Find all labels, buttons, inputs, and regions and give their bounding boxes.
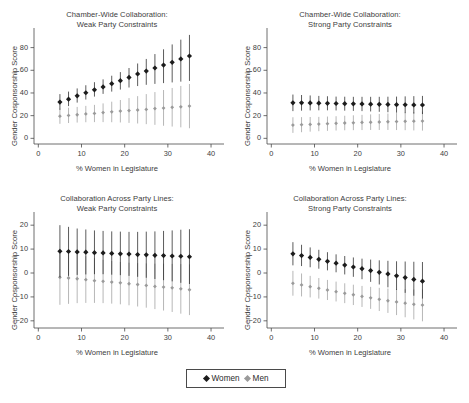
plot-area [0,2,234,188]
plot-area [233,186,467,372]
x-tick-label: 10 [70,149,94,158]
x-tick-label: 30 [156,333,180,342]
x-tick-label: 10 [303,333,327,342]
legend-entry-men: Men [245,374,269,383]
x-tick-label: 0 [259,149,283,158]
y-axis-label: Gender Cosponsorship Score [10,230,19,330]
x-tick-label: 0 [259,333,283,342]
x-axis-label: % Women in Legislature [233,348,467,357]
panel-across-party-weak: Collaboration Across Party Lines: Weak P… [0,186,234,372]
x-tick-label: 0 [26,333,50,342]
x-tick-label: 10 [303,149,327,158]
y-axis-label: Gender Cosponsorship Score [243,46,252,146]
y-axis-label: Gender Cosponsorship Score [10,46,19,146]
series-women [290,95,425,115]
series-men [291,112,424,133]
plot-area [0,186,234,372]
panel-chamber-wide-weak: Chamber-Wide Collaboration: Weak Party C… [0,2,234,188]
legend-label-women: Women [212,374,240,383]
figure-root: Chamber-Wide Collaboration: Weak Party C… [0,0,469,403]
x-tick-label: 20 [113,149,137,158]
series-men [58,84,191,128]
x-tick-label: 30 [389,149,413,158]
x-tick-label: 30 [156,149,180,158]
plot-area [233,2,467,188]
legend-label-men: Men [253,374,269,383]
y-tick-label: 20 [233,220,261,229]
x-tick-label: 0 [26,149,50,158]
x-tick-label: 40 [199,333,223,342]
x-tick-label: 40 [432,149,456,158]
diamond-marker-icon [244,375,251,382]
x-axis-label: % Women in Legislature [0,348,234,357]
x-tick-label: 10 [70,333,94,342]
series-men [58,250,191,315]
panel-across-party-strong: Collaboration Across Party Lines: Strong… [233,186,467,372]
y-axis-label: Gender Cosponsorship Score [243,230,252,330]
panel-chamber-wide-strong: Chamber-Wide Collaboration: Strong Party… [233,2,467,188]
y-tick-label: 20 [0,220,28,229]
x-tick-label: 20 [113,333,137,342]
diamond-marker-icon [202,375,209,382]
x-axis-label: % Women in Legislature [233,164,467,173]
x-tick-label: 20 [346,149,370,158]
figure-legend: Women Men [186,369,286,388]
x-axis-label: % Women in Legislature [0,164,234,173]
x-tick-label: 40 [432,333,456,342]
x-tick-label: 30 [389,333,413,342]
x-tick-label: 20 [346,333,370,342]
legend-entry-women: Women [204,374,240,383]
x-tick-label: 40 [199,149,223,158]
